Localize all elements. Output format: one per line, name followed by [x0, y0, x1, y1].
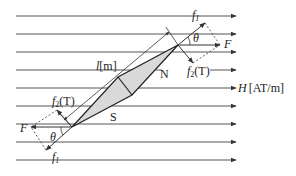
magnet-field-diagram: f1 θ F f2(T) N S l[m] H[AT/m] f2(T) F θ …	[0, 0, 296, 176]
f1-upper-label: f1	[192, 8, 199, 23]
field-label: H[AT/m]	[237, 81, 284, 95]
theta-lower-label: θ	[50, 130, 56, 144]
f2-upper-label: f2(T)	[187, 64, 210, 79]
theta-upper-label: θ	[193, 31, 199, 45]
north-forces	[178, 23, 220, 63]
length-label: l[m]	[96, 59, 117, 73]
f2-upper-arrow	[178, 45, 193, 63]
F-lower-label: F	[19, 121, 28, 135]
magnetic-needle	[72, 45, 178, 127]
f2-lower-label: f2(T)	[52, 94, 75, 109]
f1-lower-label: f1	[52, 150, 59, 165]
south-pole-label: S	[110, 110, 117, 124]
F-upper-label: F	[223, 37, 232, 51]
north-pole-label: N	[160, 67, 169, 81]
